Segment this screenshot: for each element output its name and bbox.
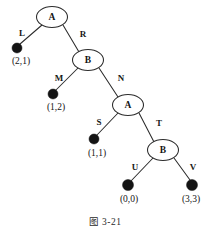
figure-caption: 图 3-21 — [89, 214, 122, 228]
leaf-node-dot — [123, 180, 134, 191]
tree-edge-r — [63, 25, 79, 52]
internal-node-label: B — [85, 56, 92, 66]
edge-label-r: R — [80, 30, 87, 39]
edge-label-s: S — [96, 118, 101, 127]
internal-nodes-group — [37, 7, 179, 161]
binary-tree-figure: LRMNSTUV(2,1)(1,2)(1,1)(0,0)(3,3)ABAB 图 … — [0, 0, 211, 229]
leaf-node-dot — [89, 134, 99, 144]
leaf-node-dot — [187, 180, 198, 191]
leaves-group — [12, 43, 198, 191]
edge-label-l: L — [19, 29, 25, 38]
edge-label-v: V — [190, 163, 197, 172]
leaf-coordinate-label: (0,0) — [120, 195, 138, 205]
internal-node-label: B — [160, 146, 167, 156]
edge-label-u: U — [132, 163, 139, 172]
edge-label-t: T — [156, 119, 162, 128]
leaf-coordinate-label: (1,2) — [47, 103, 65, 113]
leaf-node-dot — [48, 89, 58, 99]
tree-edge-n — [99, 68, 118, 97]
tree-edge-v — [174, 158, 190, 180]
leaf-coordinate-label: (1,1) — [88, 149, 106, 159]
leaf-node-dot — [12, 43, 22, 53]
leaf-coordinate-label: (2,1) — [12, 57, 30, 67]
leaf-coordinate-label: (3,3) — [182, 195, 200, 205]
tree-edge-t — [139, 113, 154, 142]
edge-label-m: M — [55, 74, 64, 83]
internal-node-label: A — [124, 101, 131, 111]
tree-canvas — [0, 0, 211, 229]
internal-node-label: A — [48, 13, 55, 23]
edge-label-n: N — [118, 74, 125, 83]
